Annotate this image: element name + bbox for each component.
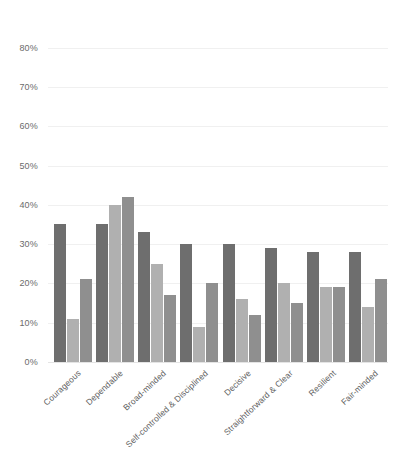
y-axis-tick-label: 20% (19, 278, 38, 288)
y-axis-tick-label: 40% (19, 200, 38, 210)
bar-group (96, 28, 135, 362)
bar (291, 303, 303, 362)
x-axis-label: Straightforward & Clear (222, 368, 295, 437)
y-axis-tick-label: 80% (19, 43, 38, 53)
y-axis-tick-label: 70% (19, 82, 38, 92)
bar-group (180, 28, 219, 362)
bar-group (307, 28, 346, 362)
y-axis-tick-label: 60% (19, 121, 38, 131)
plot-area (48, 28, 388, 362)
bars-layer (48, 28, 388, 362)
x-axis-label: Fair-minded (339, 368, 380, 407)
x-axis-labels: CourageousDependableBroad-mindedSelf-con… (48, 362, 388, 467)
y-axis: 0%10%20%30%40%50%60%70%80% (0, 28, 44, 362)
x-axis-label: Dependable (84, 368, 125, 407)
bar-chart: 0%10%20%30%40%50%60%70%80% CourageousDep… (0, 0, 396, 473)
bar-group (223, 28, 262, 362)
bar (265, 248, 277, 362)
bar (278, 283, 290, 362)
bar (223, 244, 235, 362)
bar-group (138, 28, 177, 362)
y-axis-tick-label: 0% (25, 357, 38, 367)
bar (96, 224, 108, 362)
x-axis-label: Decisive (221, 368, 252, 398)
bar (375, 279, 387, 362)
bar (180, 244, 192, 362)
bar-group (349, 28, 388, 362)
bar (362, 307, 374, 362)
bar (320, 287, 332, 362)
y-axis-tick-label: 30% (19, 239, 38, 249)
bar (122, 197, 134, 362)
bar (206, 283, 218, 362)
bar (109, 205, 121, 362)
bar-group (265, 28, 304, 362)
bar (249, 315, 261, 362)
bar (193, 327, 205, 362)
bar (151, 264, 163, 362)
bar (54, 224, 66, 362)
bar (67, 319, 79, 362)
y-axis-tick-label: 10% (19, 318, 38, 328)
x-axis-label: Broad-minded (121, 368, 168, 413)
x-axis-label: Self-controlled & Disciplined (123, 368, 209, 449)
bar-group (54, 28, 93, 362)
bar (307, 252, 319, 362)
x-axis-label: Courageous (41, 368, 82, 408)
bar (80, 279, 92, 362)
bar (333, 287, 345, 362)
y-axis-tick-label: 50% (19, 161, 38, 171)
bar (236, 299, 248, 362)
bar (349, 252, 361, 362)
bar (164, 295, 176, 362)
bar (138, 232, 150, 362)
x-axis-label: Resilient (306, 368, 337, 398)
